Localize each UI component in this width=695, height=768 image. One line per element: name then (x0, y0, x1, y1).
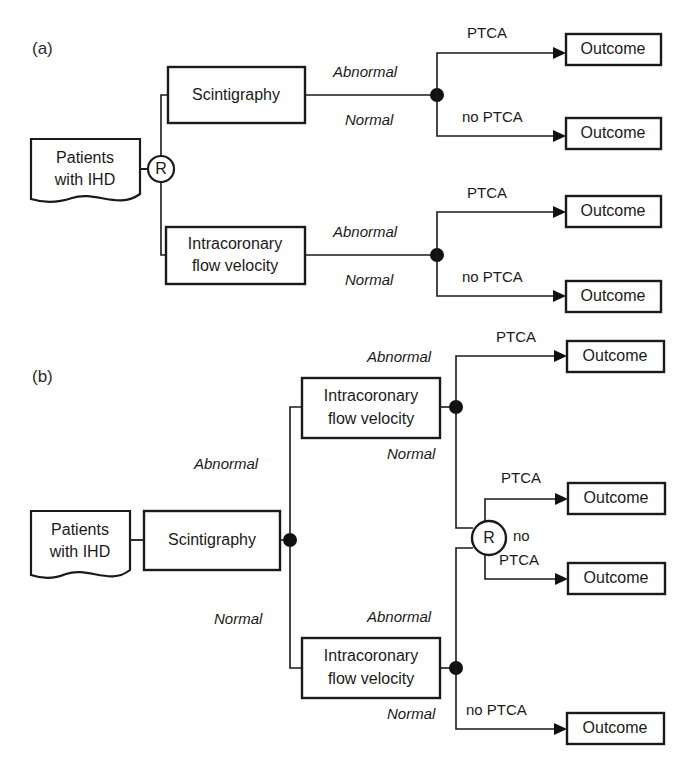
label-normal-scintigraphy-b: Normal (214, 610, 263, 627)
label-ptca-b1: PTCA (496, 328, 536, 345)
outcome-label: Outcome (584, 489, 649, 506)
icfv-line2: flow velocity (328, 670, 414, 687)
label-ptca-b3: PTCA (499, 551, 539, 568)
label-ptca-a2: PTCA (467, 184, 507, 201)
edge-normal-to-icfv-lower-b (290, 547, 302, 668)
figure-decision-trees: (a) Patients with IHD R Scintigraphy Int… (0, 0, 695, 768)
label-abnormal-icfv-a: Abnormal (332, 223, 398, 240)
label-noptca-a1: no PTCA (462, 108, 523, 125)
randomization-node-a: R (148, 156, 174, 182)
outcome-label: Outcome (583, 347, 648, 364)
outcome-box-b4: Outcome (567, 713, 664, 744)
label-ptca-a1: PTCA (467, 24, 507, 41)
outcome-box-b2: Outcome (568, 483, 665, 514)
arrowhead (553, 130, 566, 142)
scintigraphy-box-b: Scintigraphy (144, 511, 280, 570)
icfv-line2: flow velocity (328, 410, 414, 427)
icfv-line1: Intracoronary (324, 387, 418, 404)
label-noptca-b2: no PTCA (466, 701, 527, 718)
label-abnormal-scintigraphy-b: Abnormal (193, 455, 259, 472)
outcome-label: Outcome (581, 202, 646, 219)
arrowhead (554, 350, 567, 362)
intracoronary-flow-velocity-box-b-upper: Intracoronary flow velocity (302, 378, 440, 438)
edge-abnormal-to-icfv-upper-b (290, 407, 302, 533)
outcome-label: Outcome (581, 40, 646, 57)
patients-line2: with IHD (49, 543, 110, 560)
outcome-label: Outcome (584, 569, 649, 586)
edge-abnormal-lower-to-r-b (456, 548, 473, 668)
edge-ptca-b1 (456, 356, 554, 407)
label-abnormal-icfv-lower-b: Abnormal (366, 608, 432, 625)
patients-line1: Patients (51, 521, 109, 538)
panel-label-a: (a) (32, 39, 53, 58)
outcome-box-a4: Outcome (566, 281, 661, 312)
r-label: R (483, 529, 495, 546)
patients-source-a: Patients with IHD (31, 139, 140, 202)
arrowhead (555, 493, 568, 505)
label-abnormal-scintigraphy-a: Abnormal (332, 63, 398, 80)
outcome-box-a2: Outcome (566, 118, 661, 149)
label-normal-icfv-upper-b: Normal (387, 445, 436, 462)
arrowhead (554, 723, 567, 735)
outcome-box-b1: Outcome (567, 341, 664, 372)
arrowhead (553, 206, 566, 218)
result-node-scintigraphy-b (283, 533, 297, 547)
label-ptca-b2: PTCA (501, 469, 541, 486)
edge-normal-upper-to-r-b (456, 407, 473, 528)
randomization-node-b: R (472, 521, 506, 555)
arrowhead (555, 573, 568, 585)
icfv-line1: Intracoronary (188, 235, 282, 252)
outcome-box-b3: Outcome (568, 563, 665, 594)
outcome-box-a1: Outcome (566, 34, 661, 65)
arrowhead (553, 290, 566, 302)
r-label: R (155, 160, 167, 177)
label-no-b1: no (513, 527, 530, 544)
edge-ptca-b2 (485, 499, 555, 522)
patients-source-b: Patients with IHD (31, 511, 130, 578)
icfv-line1: Intracoronary (324, 647, 418, 664)
label-abnormal-icfv-upper-b: Abnormal (366, 348, 432, 365)
edge-ptca-a1 (437, 53, 553, 95)
scintigraphy-label: Scintigraphy (168, 531, 256, 548)
icfv-line2: flow velocity (192, 257, 278, 274)
intracoronary-flow-velocity-box-a: Intracoronary flow velocity (166, 227, 305, 284)
label-normal-icfv-a: Normal (345, 271, 394, 288)
label-normal-scintigraphy-a: Normal (345, 111, 394, 128)
label-noptca-a2: no PTCA (462, 268, 523, 285)
label-normal-icfv-lower-b: Normal (387, 705, 436, 722)
edge-noptca-b2 (456, 668, 554, 729)
outcome-box-a3: Outcome (566, 196, 661, 227)
patients-line2: with IHD (54, 171, 115, 188)
edge-ptca-a2 (437, 212, 553, 255)
patients-line1: Patients (56, 149, 114, 166)
intracoronary-flow-velocity-box-b-lower: Intracoronary flow velocity (302, 638, 440, 698)
scintigraphy-label: Scintigraphy (192, 86, 280, 103)
outcome-label: Outcome (581, 124, 646, 141)
scintigraphy-box-a: Scintigraphy (168, 67, 305, 123)
outcome-label: Outcome (581, 287, 646, 304)
arrowhead (553, 47, 566, 59)
outcome-label: Outcome (583, 719, 648, 736)
panel-label-b: (b) (32, 367, 53, 386)
